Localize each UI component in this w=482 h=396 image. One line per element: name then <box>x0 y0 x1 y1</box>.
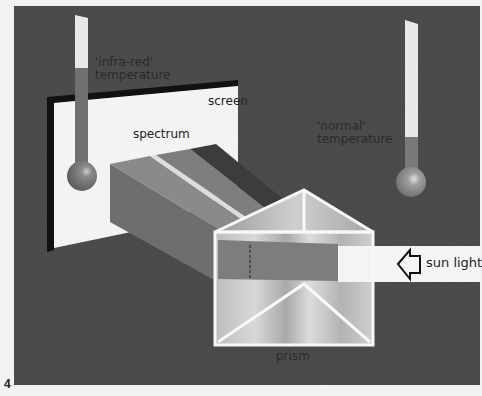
prism-label: prism <box>276 350 310 363</box>
sun-light-label: sun light <box>426 256 482 270</box>
infra-red-temperature-label: 'infra-red' temperature <box>95 56 170 81</box>
normal-temperature-label: 'normal' temperature <box>317 120 392 145</box>
screen-label: screen <box>208 95 248 108</box>
spectrum-label: spectrum <box>133 128 190 141</box>
prism-inner-beam <box>218 240 338 281</box>
figure-number: 4 <box>4 377 11 391</box>
